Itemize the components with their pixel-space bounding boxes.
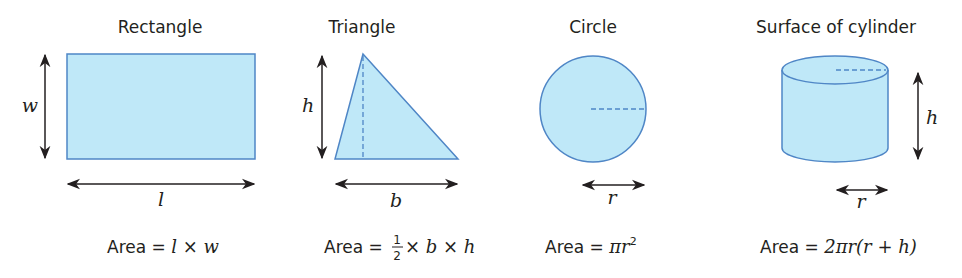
triangle-formula-prefix: Area = — [324, 237, 383, 257]
rectangle-diagram: Rectangle w l Area = l × w — [22, 17, 255, 257]
rectangle-title: Rectangle — [118, 17, 203, 37]
triangle-formula-expr: × b × h — [405, 236, 475, 257]
cylinder-height-label: h — [926, 106, 938, 128]
rectangle-shape — [67, 54, 255, 159]
base-label: b — [390, 189, 402, 211]
cylinder-radius-label: r — [856, 190, 867, 212]
circle-title: Circle — [569, 17, 617, 37]
rectangle-formula: Area = l × w — [107, 236, 219, 257]
cylinder-diagram: Surface of cylinder h r Area = 2πr(r + h… — [756, 17, 938, 257]
width-label: w — [22, 94, 38, 116]
triangle-shape — [335, 54, 458, 159]
length-label: l — [158, 188, 164, 210]
circle-diagram: Circle r Area = πr2 — [540, 17, 646, 257]
height-label: h — [302, 94, 314, 116]
triangle-diagram: Triangle h b Area = 1 2 × b × h — [302, 17, 476, 263]
radius-label: r — [607, 186, 618, 208]
fraction-denominator: 2 — [393, 249, 401, 263]
cylinder-title: Surface of cylinder — [756, 17, 916, 37]
triangle-title: Triangle — [328, 17, 396, 37]
cylinder-formula: Area = 2πr(r + h) — [760, 236, 917, 257]
circle-formula: Area = πr2 — [545, 235, 637, 257]
fraction-numerator: 1 — [393, 233, 401, 247]
